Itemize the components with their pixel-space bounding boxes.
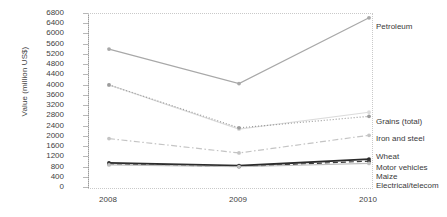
series-label-grains-total: Grains (total) [376, 117, 422, 126]
series-label-electrical-telecom: Electrical/telecom [376, 181, 439, 190]
y-tick-label: 4400 [6, 70, 64, 78]
data-point-marker [107, 137, 111, 141]
y-tick-label: 4800 [6, 60, 64, 68]
data-point-marker [367, 16, 371, 20]
y-tick-label: 2800 [6, 111, 64, 119]
series-line-petroleum [109, 18, 369, 84]
series-lines [89, 14, 372, 188]
y-tick-label: 2000 [6, 132, 64, 140]
y-tick-label: 0 [6, 183, 64, 191]
y-tick-label: 6800 [6, 9, 64, 17]
y-tick-label: 2400 [6, 122, 64, 130]
x-tick-label: 2008 [78, 195, 138, 204]
data-point-marker [367, 133, 371, 137]
series-label-petroleum: Petroleum [376, 22, 412, 31]
series-label-wheat: Wheat [376, 152, 399, 161]
y-tick-label: 3200 [6, 101, 64, 109]
y-tick-label: 3600 [6, 91, 64, 99]
x-tick-label: 2010 [338, 195, 398, 204]
data-point-marker [237, 126, 241, 130]
data-point-marker [367, 110, 371, 114]
y-tick-label: 4000 [6, 81, 64, 89]
data-point-marker [237, 151, 241, 155]
series-line-wheat [109, 135, 369, 153]
line-chart: Value (million US$) 68006400600056005200… [0, 0, 447, 217]
data-point-marker [107, 47, 111, 51]
y-tick-label: 1200 [6, 152, 64, 160]
data-point-marker [237, 165, 241, 169]
series-label-motor-vehicles: Motor vehicles [376, 163, 428, 172]
y-tick-label: 6000 [6, 29, 64, 37]
y-tick-label: 5200 [6, 50, 64, 58]
series-line-iron-and-steel [109, 85, 369, 128]
data-point-marker [367, 162, 371, 166]
y-tick-label: 5600 [6, 40, 64, 48]
data-point-marker [107, 163, 111, 167]
plot-area [88, 13, 373, 189]
series-line-grains-total [109, 85, 369, 129]
data-point-marker [237, 82, 241, 86]
data-point-marker [367, 114, 371, 118]
data-point-marker [107, 83, 111, 87]
y-tick-label: 6400 [6, 19, 64, 27]
series-label-iron-and-steel: Iron and steel [376, 134, 424, 143]
y-tick-label: 1600 [6, 142, 64, 150]
x-tick-label: 2009 [208, 195, 268, 204]
y-tick-label: 800 [6, 163, 64, 171]
y-tick-label: 400 [6, 173, 64, 181]
series-label-maize: Maize [376, 172, 397, 181]
